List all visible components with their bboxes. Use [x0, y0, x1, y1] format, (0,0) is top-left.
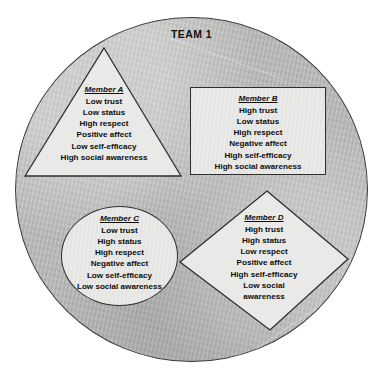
- member-c-attr-self-efficacy: Low self-efficacy: [44, 270, 195, 281]
- member-a-attr-respect: High respect: [33, 118, 175, 129]
- member-b-attr-self-efficacy: High self-efficacy: [190, 150, 326, 161]
- member-c-text: Member C Low trust High status High resp…: [44, 213, 195, 292]
- member-b-attr-affect: Negative affect: [190, 138, 326, 149]
- member-a-text: Member A Low trust Low status High respe…: [33, 84, 175, 163]
- member-b-text: Member B High trust Low status High resp…: [190, 93, 326, 172]
- member-c-attr-status: High status: [44, 236, 195, 247]
- member-a-heading: Member A: [33, 84, 175, 95]
- member-b-attr-status: Low status: [190, 116, 326, 127]
- member-a-attr-trust: Low trust: [33, 96, 175, 107]
- team-title: TEAM 1: [0, 28, 383, 40]
- member-b-attr-respect: High respect: [190, 127, 326, 138]
- member-d-heading: Member D: [196, 212, 332, 223]
- member-d-attr-social-awareness-line2: awareness: [196, 291, 332, 302]
- member-d-attr-self-efficacy: High self-efficacy: [196, 269, 332, 280]
- member-a-attr-affect: Positive affect: [33, 129, 175, 140]
- member-d-attr-trust: High trust: [196, 224, 332, 235]
- team-diagram: TEAM 1 Member A Low trust Low status Hig…: [0, 0, 383, 375]
- member-d-attr-affect: Positive affect: [196, 257, 332, 268]
- member-a-attr-self-efficacy: Low self-efficacy: [33, 141, 175, 152]
- member-d-attr-social-awareness-line1: Low social: [196, 280, 332, 291]
- member-a-attr-social-awareness: High social awareness: [33, 152, 175, 163]
- member-c-attr-social-awareness: Low social awareness: [44, 281, 195, 292]
- member-d-attr-respect: Low respect: [196, 246, 332, 257]
- member-d-attr-status: High status: [196, 235, 332, 246]
- member-c-attr-trust: Low trust: [44, 225, 195, 236]
- member-a-attr-status: Low status: [33, 107, 175, 118]
- scan-streak: [169, 38, 282, 80]
- member-c-attr-affect: Negative affect: [44, 258, 195, 269]
- member-b-heading: Member B: [190, 93, 326, 104]
- member-d-text: Member D High trust High status Low resp…: [196, 212, 332, 302]
- member-b-attr-trust: High trust: [190, 105, 326, 116]
- member-b-attr-social-awareness: High social awareness: [190, 161, 326, 172]
- member-c-attr-respect: High respect: [44, 247, 195, 258]
- member-c-heading: Member C: [44, 213, 195, 224]
